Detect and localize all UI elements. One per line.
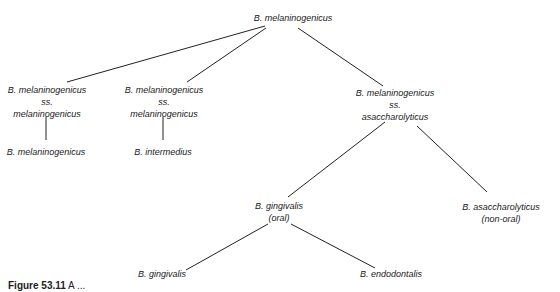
node-label: melaninogenicus: [125, 108, 204, 120]
node-label: ss.: [8, 96, 87, 108]
node-ss-melaninogenicus-1: B. melaninogenicus ss. melaninogenicus: [8, 84, 87, 120]
node-label: asaccharolyticus: [356, 111, 435, 123]
edge-ssasacch-basacch: [417, 126, 487, 192]
node-root: B. melaninogenicus: [254, 12, 333, 24]
node-label: ss.: [125, 96, 204, 108]
node-label: B. endodontalis: [360, 268, 422, 280]
node-label: B. intermedius: [134, 146, 192, 158]
node-label: B. gingivalis: [255, 200, 303, 212]
edge-bgingoral-bging: [186, 224, 268, 270]
node-label: B. melaninogenicus: [7, 146, 86, 158]
node-ss-asaccharolyticus: B. melaninogenicus ss. asaccharolyticus: [356, 87, 435, 123]
node-b-melaninogenicus: B. melaninogenicus: [7, 146, 86, 158]
node-b-intermedius: B. intermedius: [134, 146, 192, 158]
caption-text: A ...: [66, 280, 85, 291]
node-label: B. melaninogenicus: [254, 12, 333, 24]
node-label: (non-oral): [462, 213, 540, 225]
node-label: B. asaccharolyticus: [462, 201, 540, 213]
edge-bgingoral-bendo: [291, 224, 375, 268]
node-label: ss.: [356, 99, 435, 111]
node-b-asaccharolyticus: B. asaccharolyticus (non-oral): [462, 201, 540, 225]
figure-label: Figure 53.11: [8, 280, 66, 291]
node-label: B. melaninogenicus: [125, 84, 204, 96]
edge-root-ssmel2: [187, 28, 266, 82]
node-b-gingivalis: B. gingivalis: [138, 268, 186, 280]
node-ss-melaninogenicus-2: B. melaninogenicus ss. melaninogenicus: [125, 84, 204, 120]
edge-ssasacch-bgingoral: [288, 122, 385, 197]
edge-root-ssasacch: [298, 28, 383, 86]
edge-root-ssmel1: [67, 26, 265, 82]
node-b-gingivalis-oral: B. gingivalis (oral): [255, 200, 303, 224]
node-label: (oral): [255, 212, 303, 224]
node-label: melaninogenicus: [8, 108, 87, 120]
node-label: B. gingivalis: [138, 268, 186, 280]
node-b-endodontalis: B. endodontalis: [360, 268, 422, 280]
node-label: B. melaninogenicus: [356, 87, 435, 99]
node-label: B. melaninogenicus: [8, 84, 87, 96]
figure-caption: Figure 53.11 A ...: [8, 280, 85, 292]
